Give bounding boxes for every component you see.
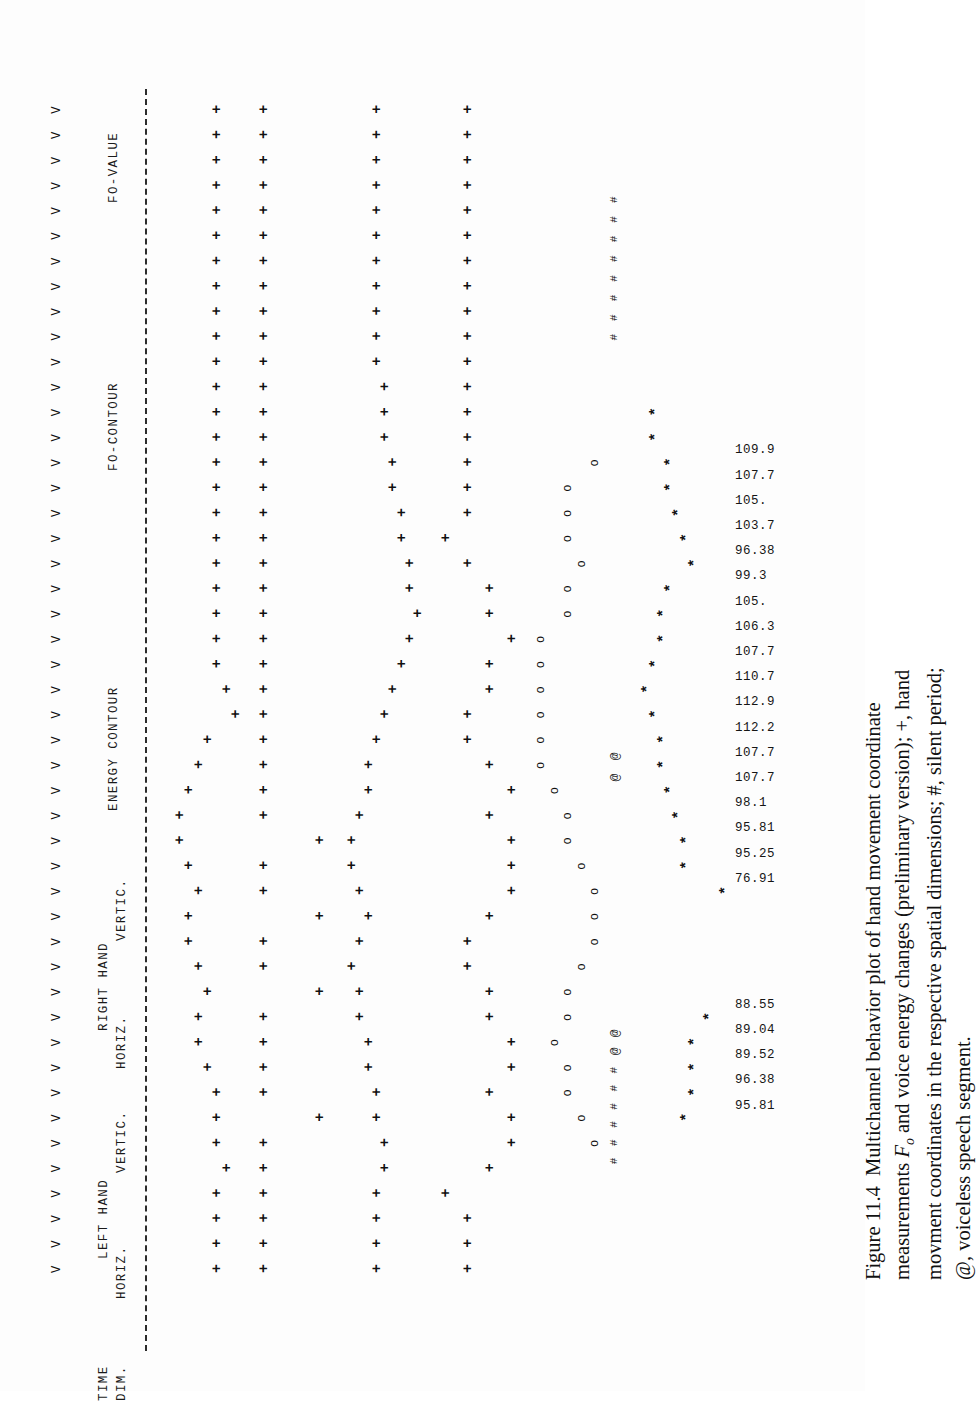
f0-value: 89.52 (735, 1048, 775, 1062)
point-*: * (648, 407, 663, 416)
point-o: o (589, 1139, 601, 1146)
time-mark: V (51, 358, 63, 365)
point-+: + (201, 1062, 216, 1071)
time-mark: V (51, 1064, 63, 1071)
point-+: + (461, 407, 476, 416)
point-o: o (562, 535, 574, 542)
point-+: + (483, 986, 498, 995)
point-+: + (210, 281, 225, 290)
point-*: * (641, 684, 656, 693)
f0-value: 88.55 (735, 997, 775, 1011)
point-o: o (562, 1064, 574, 1071)
point-+: + (257, 1062, 272, 1071)
lane-left-hand-vertic: ++++++++++++++++++++++++++++++++++++++++… (251, 89, 325, 1351)
point-+: + (461, 230, 476, 239)
point-o: o (562, 509, 574, 516)
f0-value: 109.9 (735, 443, 775, 457)
point-+: + (461, 432, 476, 441)
f0-value: 105. (735, 594, 767, 608)
point-+: + (210, 608, 225, 617)
f0-value: 99.3 (735, 569, 767, 583)
point-o: o (535, 661, 547, 668)
time-mark: V (51, 182, 63, 189)
point-+: + (461, 381, 476, 390)
point-+: + (257, 633, 272, 642)
point-+: + (257, 1263, 272, 1272)
point-+: + (210, 1238, 225, 1247)
header-right-vertic: VERTIC. (115, 878, 129, 940)
point-+: + (378, 709, 393, 718)
lane-right-hand-horiz: ++++++++++++++++++++++++++++++++++++++++… (339, 89, 423, 1351)
lane-silence-markers: ######@@@@######## (607, 89, 629, 1351)
point-o: o (535, 711, 547, 718)
point-+: + (369, 1238, 384, 1247)
point-+: + (210, 1137, 225, 1146)
header-right-horiz: HORIZ. (115, 1015, 129, 1068)
point-+: + (257, 785, 272, 794)
point-+: + (483, 911, 498, 920)
lane-f0-contour: ************************* (635, 89, 731, 1351)
point-+: + (369, 734, 384, 743)
time-mark: V (51, 837, 63, 844)
point-+: + (210, 633, 225, 642)
point-+: + (361, 785, 376, 794)
point-o: o (575, 1114, 587, 1121)
point-*: * (687, 1087, 702, 1096)
point-+: + (505, 1112, 520, 1121)
time-mark: V (51, 761, 63, 768)
figure-number: Figure 11.4 (862, 1186, 884, 1280)
point-+: + (353, 1011, 368, 1020)
silent-period-marker: # (609, 314, 620, 321)
point-+: + (369, 230, 384, 239)
point-+: + (257, 457, 272, 466)
silent-period-marker: # (609, 1084, 620, 1091)
point-+: + (191, 885, 206, 894)
point-+: + (505, 885, 520, 894)
point-+: + (461, 961, 476, 970)
point-+: + (378, 1163, 393, 1172)
point-+: + (257, 331, 272, 340)
point-*: * (656, 608, 671, 617)
point-+: + (461, 281, 476, 290)
point-+: + (257, 583, 272, 592)
point-+: + (313, 911, 328, 920)
point-+: + (210, 482, 225, 491)
point-+: + (369, 281, 384, 290)
point-+: + (257, 381, 272, 390)
point-+: + (257, 759, 272, 768)
f0-value: 76.91 (735, 871, 775, 885)
time-mark: V (51, 1240, 63, 1247)
point-*: * (672, 507, 687, 516)
time-mark: V (51, 913, 63, 920)
time-mark: V (51, 1139, 63, 1146)
point-+: + (313, 835, 328, 844)
silent-period-marker: # (609, 294, 620, 301)
point-o: o (575, 963, 587, 970)
point-+: + (182, 911, 197, 920)
point-+: + (257, 281, 272, 290)
time-mark: V (51, 131, 63, 138)
point-+: + (439, 1188, 454, 1197)
point-+: + (210, 1087, 225, 1096)
point-+: + (411, 608, 426, 617)
point-+: + (483, 1087, 498, 1096)
point-+: + (257, 936, 272, 945)
point-+: + (505, 835, 520, 844)
point-*: * (687, 1037, 702, 1046)
point-+: + (257, 885, 272, 894)
time-mark: V (51, 232, 63, 239)
point-+: + (369, 205, 384, 214)
point-o: o (562, 585, 574, 592)
point-+: + (173, 810, 188, 819)
point-+: + (483, 608, 498, 617)
silent-period-marker: # (609, 235, 620, 242)
point-+: + (257, 255, 272, 264)
time-mark: V (51, 409, 63, 416)
point-+: + (191, 759, 206, 768)
point-+: + (361, 1062, 376, 1071)
lane-time-marks: VVVVVVVVVVVVVVVVVVVVVVVVVVVVVVVVVVVVVVVV… (49, 89, 71, 1351)
point-+: + (386, 684, 401, 693)
point-+: + (369, 1112, 384, 1121)
point-+: + (257, 1011, 272, 1020)
time-mark: V (51, 535, 63, 542)
